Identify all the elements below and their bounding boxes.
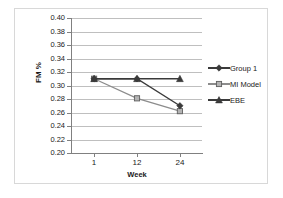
diamond-marker (216, 65, 222, 71)
legend-item-group-1[interactable]: Group 1 (208, 60, 266, 76)
legend-marker (208, 62, 230, 74)
triangle-marker (216, 97, 223, 103)
y-tick-mark (67, 126, 71, 127)
square-marker (134, 96, 139, 101)
y-tick-mark (67, 32, 71, 33)
legend-label: Group 1 (230, 64, 257, 73)
y-tick-mark (67, 99, 71, 100)
y-tick-mark (67, 72, 71, 73)
y-tick-mark (67, 140, 71, 141)
legend-label: EBE (230, 96, 245, 105)
legend-marker (208, 78, 230, 90)
square-marker (216, 81, 221, 86)
y-tick-mark (67, 86, 71, 87)
chart-figure: 0.400.380.360.340.320.300.280.260.240.22… (0, 0, 283, 198)
y-tick-mark (67, 59, 71, 60)
y-tick-mark (67, 153, 71, 154)
legend-label: MI Model (230, 80, 261, 89)
legend-marker (208, 94, 230, 106)
diamond-marker (177, 103, 183, 109)
legend-item-ebe[interactable]: EBE (208, 92, 266, 108)
series-line (94, 79, 180, 106)
series-line (94, 79, 180, 111)
legend-item-mi-model[interactable]: MI Model (208, 76, 266, 92)
diamond-marker-icon (208, 62, 230, 74)
triangle-marker-icon (208, 94, 230, 106)
y-tick-mark (67, 113, 71, 114)
y-tick-mark (67, 45, 71, 46)
series-group-1 (91, 76, 183, 109)
chart-legend: Group 1MI ModelEBE (208, 60, 266, 108)
square-marker-icon (208, 78, 230, 90)
y-tick-mark (67, 18, 71, 19)
